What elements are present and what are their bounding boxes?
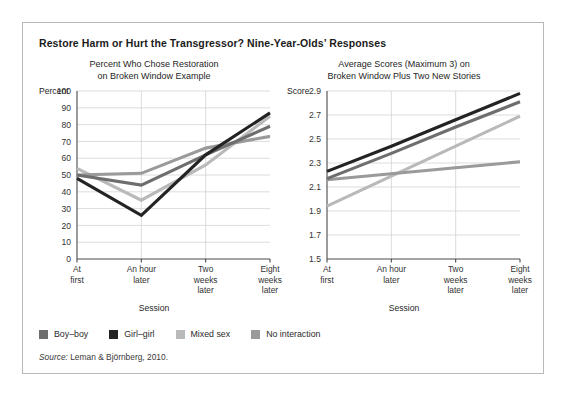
figure-title: Restore Harm or Hurt the Transgressor? N… [39, 37, 386, 49]
legend-swatch-icon [251, 330, 260, 339]
y-tick-label: 80 [61, 120, 71, 130]
legend-item-1[interactable]: Girl–girl [109, 329, 154, 339]
x-tick-left-0: Atfirst [42, 264, 112, 285]
figure-card: Restore Harm or Hurt the Transgressor? N… [22, 22, 544, 374]
series-line-boy-boy [77, 126, 270, 185]
line-chart-left: 0102030405060708090100 [31, 85, 277, 285]
y-tick-label: 20 [61, 221, 71, 231]
y-tick-label: 10 [61, 237, 71, 247]
y-tick-label: 1.7 [309, 230, 321, 240]
legend-label: Mixed sex [191, 329, 231, 339]
legend-label: No interaction [266, 329, 320, 339]
x-tick-right-1: An hourlater [356, 264, 426, 285]
legend-item-2[interactable]: Mixed sex [176, 329, 231, 339]
y-tick-label: 100 [57, 86, 72, 96]
chart-title-right: Average Scores (Maximum 3) on Broken Win… [281, 59, 527, 82]
y-tick-label: 2.1 [309, 182, 321, 192]
plot-area-right: 1.51.71.92.12.32.52.72.9 [281, 85, 527, 285]
source-note: Source: Leman & Björnberg, 2010. [39, 352, 168, 362]
y-tick-label: 0 [66, 254, 71, 264]
x-tick-left-2: Twoweekslater [171, 264, 241, 296]
chart-title-left: Percent Who Chose Restoration on Broken … [31, 59, 277, 82]
y-tick-label: 40 [61, 187, 71, 197]
x-tick-left-1: An hourlater [106, 264, 176, 285]
legend-item-3[interactable]: No interaction [251, 329, 320, 339]
chart-panel-right: Average Scores (Maximum 3) on Broken Win… [281, 59, 527, 319]
source-citation: Leman & Björnberg, 2010. [68, 352, 168, 362]
y-tick-label: 2.3 [309, 158, 321, 168]
y-tick-label: 30 [61, 204, 71, 214]
chart-panel-left: Percent Who Chose Restoration on Broken … [31, 59, 277, 319]
series-line-boy-boy [327, 102, 520, 179]
legend-label: Boy–boy [54, 329, 88, 339]
series-line-girl-girl [77, 113, 270, 215]
x-axis-label-left: Session [31, 303, 277, 313]
y-tick-label: 70 [61, 137, 71, 147]
legend-swatch-icon [176, 330, 185, 339]
y-tick-label: 50 [61, 170, 71, 180]
x-tick-right-3: Eightweekslater [485, 264, 555, 296]
legend-swatch-icon [39, 330, 48, 339]
legend: Boy–boyGirl–girlMixed sexNo interaction [39, 329, 341, 339]
y-tick-label: 2.7 [309, 110, 321, 120]
y-tick-label: 1.5 [309, 254, 321, 264]
y-tick-label: 60 [61, 153, 71, 163]
y-tick-label: 1.9 [309, 206, 321, 216]
legend-swatch-icon [109, 330, 118, 339]
x-tick-right-2: Twoweekslater [421, 264, 491, 296]
legend-item-0[interactable]: Boy–boy [39, 329, 88, 339]
plot-area-left: 0102030405060708090100 [31, 85, 277, 285]
y-tick-label: 2.5 [309, 134, 321, 144]
source-label: Source: [39, 352, 68, 362]
series-line-no-interaction [327, 162, 520, 180]
y-tick-label: 2.9 [309, 86, 321, 96]
line-chart-right: 1.51.71.92.12.32.52.72.9 [281, 85, 527, 285]
x-tick-right-0: Atfirst [292, 264, 362, 285]
legend-label: Girl–girl [124, 329, 154, 339]
y-tick-label: 90 [61, 103, 71, 113]
x-axis-label-right: Session [281, 303, 527, 313]
